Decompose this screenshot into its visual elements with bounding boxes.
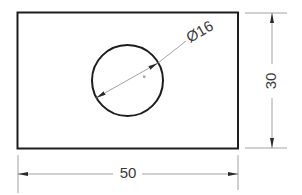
technical-drawing: Ø16 30 50 <box>0 0 302 195</box>
width-label: 50 <box>120 164 137 181</box>
diameter-label: Ø16 <box>183 17 216 46</box>
center-mark <box>143 76 146 79</box>
height-dimension: 30 <box>245 13 287 148</box>
diameter-dimension: Ø16 <box>96 17 216 98</box>
height-label: 30 <box>262 73 279 90</box>
width-dimension: 50 <box>18 155 238 193</box>
